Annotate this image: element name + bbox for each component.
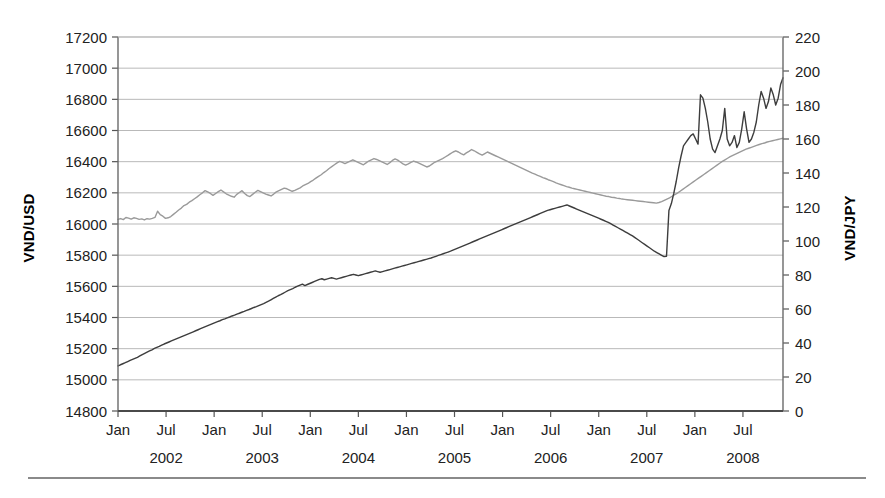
left-tick-label: 16000: [65, 216, 107, 233]
right-tick-label: 0: [795, 403, 803, 420]
year-label: 2003: [246, 449, 279, 466]
left-axis-ticks: 1480015000152001540015600158001600016200…: [65, 29, 118, 420]
x-axis-ticks: JanJulJanJulJanJulJanJulJanJulJanJulJanJ…: [106, 411, 760, 466]
right-tick-label: 100: [795, 233, 820, 250]
right-tick-label: 60: [795, 301, 812, 318]
x-tick-label: Jan: [587, 421, 611, 438]
right-tick-label: 20: [795, 369, 812, 386]
year-label: 2005: [438, 449, 471, 466]
right-tick-label: 40: [795, 335, 812, 352]
year-label: 2002: [149, 449, 182, 466]
x-tick-label: Jan: [394, 421, 418, 438]
x-tick-label: Jul: [541, 421, 560, 438]
right-tick-label: 80: [795, 267, 812, 284]
x-tick-label: Jul: [733, 421, 752, 438]
year-label: 2006: [534, 449, 567, 466]
x-tick-label: Jan: [202, 421, 226, 438]
right-tick-label: 140: [795, 165, 820, 182]
left-tick-label: 15200: [65, 340, 107, 357]
series-line-vnd-usd: [118, 138, 783, 220]
x-tick-label: Jan: [683, 421, 707, 438]
x-tick-label: Jul: [253, 421, 272, 438]
left-tick-label: 17200: [65, 29, 107, 46]
x-tick-label: Jan: [298, 421, 322, 438]
series-layer: [118, 78, 783, 366]
gridlines: [118, 37, 783, 411]
x-tick-label: Jan: [490, 421, 514, 438]
year-label: 2004: [342, 449, 375, 466]
year-label: 2007: [630, 449, 663, 466]
left-tick-label: 14800: [65, 403, 107, 420]
year-label: 2008: [726, 449, 759, 466]
right-tick-label: 120: [795, 199, 820, 216]
series-line-vnd-jpy: [118, 78, 783, 366]
left-tick-label: 15800: [65, 247, 107, 264]
left-axis-title: VND/USD: [20, 194, 37, 263]
right-axis-ticks: 020406080100120140160180200220: [783, 29, 820, 420]
left-tick-label: 16400: [65, 153, 107, 170]
x-tick-label: Jul: [445, 421, 464, 438]
right-axis-title: VND/JPY: [841, 195, 858, 261]
x-tick-label: Jan: [106, 421, 130, 438]
left-tick-label: 16200: [65, 184, 107, 201]
left-tick-label: 15600: [65, 278, 107, 295]
right-tick-label: 200: [795, 63, 820, 80]
right-tick-label: 160: [795, 131, 820, 148]
left-tick-label: 15000: [65, 371, 107, 388]
x-tick-label: Jul: [156, 421, 175, 438]
x-tick-label: Jul: [349, 421, 368, 438]
left-tick-label: 16800: [65, 91, 107, 108]
left-tick-label: 15400: [65, 309, 107, 326]
x-tick-label: Jul: [637, 421, 656, 438]
right-tick-label: 220: [795, 29, 820, 46]
right-tick-label: 180: [795, 97, 820, 114]
chart-figure: 1480015000152001540015600158001600016200…: [0, 0, 885, 498]
exchange-rate-line-chart: 1480015000152001540015600158001600016200…: [0, 0, 885, 498]
left-tick-label: 17000: [65, 60, 107, 77]
left-tick-label: 16600: [65, 122, 107, 139]
footer-rule: [28, 477, 866, 479]
